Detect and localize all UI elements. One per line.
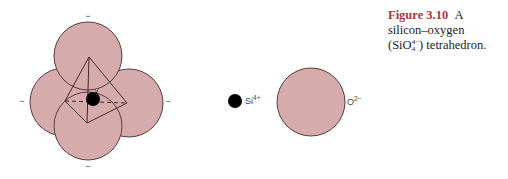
- silicon-ion-standalone: [228, 94, 242, 108]
- silicon-ion-center: [86, 92, 100, 106]
- minus-mark-bottom: −: [85, 161, 90, 171]
- caption-line2: silicon–oxygen: [388, 23, 464, 37]
- caption-lead: A: [454, 8, 463, 22]
- oxygen-spheres: [30, 22, 163, 160]
- figure-number: Figure 3.10: [388, 8, 448, 22]
- caption-formula-close: ) tetrahedron.: [419, 38, 486, 52]
- figure-caption: Figure 3.10 A silicon–oxygen (SiO4−4) te…: [388, 8, 506, 53]
- minus-mark-right: −: [165, 96, 170, 106]
- o-ion-label: O2−: [347, 95, 362, 107]
- caption-formula-open: (SiO: [388, 38, 412, 52]
- minus-mark-left: −: [19, 96, 24, 106]
- oxygen-ion-standalone: [277, 68, 345, 136]
- si-ion-label: Si4+: [245, 94, 261, 106]
- formula-sub: 4: [412, 46, 419, 53]
- minus-mark-top: −: [85, 11, 90, 21]
